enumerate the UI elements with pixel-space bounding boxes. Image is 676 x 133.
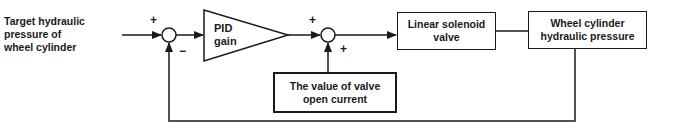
linear-solenoid-valve-label: Linear solenoid valve — [408, 18, 486, 44]
summing-junction-1 — [162, 28, 176, 42]
sum1-minus-sign: − — [179, 45, 186, 57]
valve-open-current-block: The value of valve open current — [273, 72, 397, 113]
wheel-cylinder-pressure-label: Wheel cylinder hydraulic pressure — [541, 17, 635, 43]
summing-junction-2 — [321, 28, 335, 42]
input-label: Target hydraulic pressure of wheel cylin… — [4, 15, 85, 54]
sum1-plus-sign: + — [150, 14, 157, 26]
wheel-cylinder-pressure-block: Wheel cylinder hydraulic pressure — [528, 11, 647, 49]
linear-solenoid-valve-block: Linear solenoid valve — [397, 12, 496, 50]
pid-gain-label: PID gain — [214, 22, 237, 48]
sum2-plus-sign-top: + — [309, 14, 316, 26]
sum2-plus-sign-bottom: + — [340, 43, 347, 55]
valve-open-current-label: The value of valve open current — [290, 80, 380, 106]
